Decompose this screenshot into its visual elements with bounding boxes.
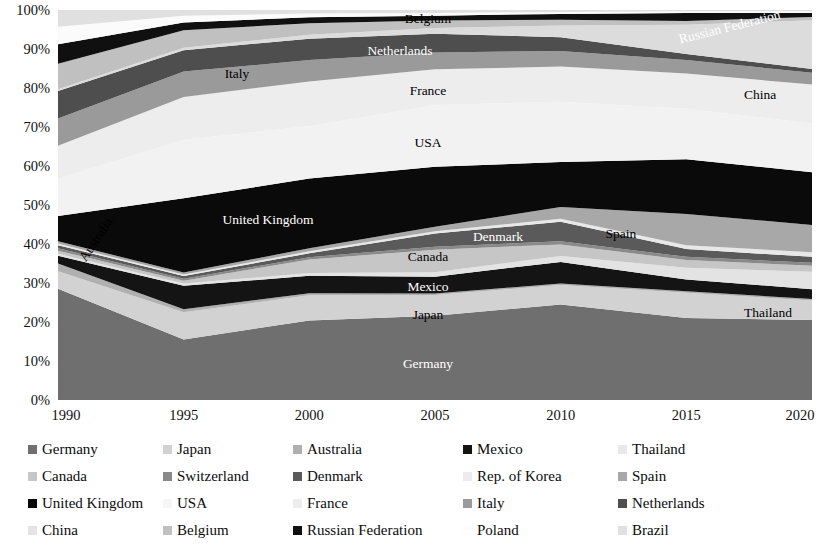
band-label-spain: Spain <box>606 226 637 241</box>
y-tick-0pct: 0% <box>31 392 50 408</box>
legend-swatch-icon-japan <box>163 445 172 454</box>
legend-swatch-icon-france <box>293 499 302 508</box>
legend-swatch-icon-brazil <box>618 526 627 535</box>
legend-label-poland: Poland <box>477 523 519 538</box>
legend-item-poland[interactable]: Poland <box>463 523 618 538</box>
legend-label-russian-federation: Russian Federation <box>307 523 422 538</box>
legend-swatch-icon-canada <box>28 472 37 481</box>
legend-item-japan[interactable]: Japan <box>163 442 293 457</box>
x-tick-1990: 1990 <box>52 407 81 423</box>
legend-item-usa[interactable]: USA <box>163 496 293 511</box>
legend-swatch-icon-usa <box>163 499 172 508</box>
chart-legend: GermanyJapanAustraliaMexicoThailandCanad… <box>0 432 822 545</box>
stacked-area-chart-page: 0%10%20%30%40%50%60%70%80%90%100% German… <box>0 0 822 545</box>
legend-swatch-icon-thailand <box>618 445 627 454</box>
y-tick-90pct: 90% <box>23 41 50 57</box>
legend-item-netherlands[interactable]: Netherlands <box>618 496 798 511</box>
x-tick-2015: 2015 <box>672 407 701 423</box>
legend-item-mexico[interactable]: Mexico <box>463 442 618 457</box>
band-label-mexico: Mexico <box>407 279 448 294</box>
x-tick-2000: 2000 <box>295 407 324 423</box>
legend-label-france: France <box>307 496 348 511</box>
band-label-thailand: Thailand <box>744 305 792 320</box>
legend-row: GermanyJapanAustraliaMexicoThailand <box>0 436 822 463</box>
y-tick-10pct: 10% <box>23 353 50 369</box>
legend-item-switzerland[interactable]: Switzerland <box>163 469 293 484</box>
legend-item-denmark[interactable]: Denmark <box>293 469 463 484</box>
band-label-japan: Japan <box>413 307 444 322</box>
chart-canvas: 0%10%20%30%40%50%60%70%80%90%100% German… <box>0 0 822 432</box>
y-tick-20pct: 20% <box>23 314 50 330</box>
legend-row: CanadaSwitzerlandDenmarkRep. of KoreaSpa… <box>0 463 822 490</box>
legend-swatch-icon-spain <box>618 472 627 481</box>
legend-item-brazil[interactable]: Brazil <box>618 523 798 538</box>
y-tick-30pct: 30% <box>23 275 50 291</box>
legend-label-mexico: Mexico <box>477 442 523 457</box>
band-label-france: France <box>410 83 447 98</box>
legend-item-china[interactable]: China <box>0 523 163 538</box>
legend-swatch-icon-netherlands <box>618 499 627 508</box>
legend-label-switzerland: Switzerland <box>177 469 249 484</box>
legend-item-belgium[interactable]: Belgium <box>163 523 293 538</box>
band-label-united-kingdom: United Kingdom <box>222 212 314 227</box>
legend-label-brazil: Brazil <box>632 523 669 538</box>
legend-swatch-icon-australia <box>293 445 302 454</box>
legend-label-rep-of-korea: Rep. of Korea <box>477 469 562 484</box>
legend-item-thailand[interactable]: Thailand <box>618 442 798 457</box>
band-label-germany: Germany <box>403 356 453 371</box>
area-bands-group <box>58 10 812 400</box>
legend-label-netherlands: Netherlands <box>632 496 704 511</box>
y-tick-60pct: 60% <box>23 158 50 174</box>
x-tick-2005: 2005 <box>421 407 450 423</box>
band-label-italy: Italy <box>225 66 250 81</box>
legend-label-united-kingdom: United Kingdom <box>42 496 143 511</box>
legend-swatch-icon-italy <box>463 499 472 508</box>
legend-label-thailand: Thailand <box>632 442 685 457</box>
legend-item-united-kingdom[interactable]: United Kingdom <box>0 496 163 511</box>
legend-label-denmark: Denmark <box>307 469 363 484</box>
y-tick-80pct: 80% <box>23 80 50 96</box>
legend-label-canada: Canada <box>42 469 87 484</box>
legend-swatch-icon-switzerland <box>163 472 172 481</box>
legend-item-rep-of-korea[interactable]: Rep. of Korea <box>463 469 618 484</box>
x-tick-2020: 2020 <box>786 407 815 423</box>
legend-label-australia: Australia <box>307 442 362 457</box>
legend-item-italy[interactable]: Italy <box>463 496 618 511</box>
legend-item-germany[interactable]: Germany <box>0 442 163 457</box>
y-tick-70pct: 70% <box>23 119 50 135</box>
legend-item-australia[interactable]: Australia <box>293 442 463 457</box>
legend-label-belgium: Belgium <box>177 523 229 538</box>
legend-item-france[interactable]: France <box>293 496 463 511</box>
legend-row: United KingdomUSAFranceItalyNetherlands <box>0 490 822 517</box>
legend-label-china: China <box>42 523 78 538</box>
legend-swatch-icon-mexico <box>463 445 472 454</box>
band-label-china: China <box>744 87 776 102</box>
band-label-belgium: Belgium <box>405 11 452 26</box>
band-label-denmark: Denmark <box>473 229 523 244</box>
legend-swatch-icon-china <box>28 526 37 535</box>
legend-label-spain: Spain <box>632 469 666 484</box>
legend-swatch-icon-denmark <box>293 472 302 481</box>
y-tick-40pct: 40% <box>23 236 50 252</box>
legend-swatch-icon-united-kingdom <box>28 499 37 508</box>
band-label-usa: USA <box>414 135 441 150</box>
legend-swatch-icon-germany <box>28 445 37 454</box>
x-axis-tick-labels: 1990199520002005201020152020 <box>52 407 815 423</box>
legend-item-canada[interactable]: Canada <box>0 469 163 484</box>
y-tick-100pct: 100% <box>16 2 50 18</box>
legend-label-usa: USA <box>177 496 207 511</box>
legend-swatch-icon-poland <box>463 526 472 535</box>
legend-label-germany: Germany <box>42 442 98 457</box>
legend-label-italy: Italy <box>477 496 505 511</box>
chart-svg: 0%10%20%30%40%50%60%70%80%90%100% German… <box>0 0 822 432</box>
legend-swatch-icon-rep-of-korea <box>463 472 472 481</box>
legend-row: ChinaBelgiumRussian FederationPolandBraz… <box>0 517 822 544</box>
x-tick-1995: 1995 <box>169 407 198 423</box>
legend-swatch-icon-belgium <box>163 526 172 535</box>
legend-swatch-icon-russian-federation <box>293 526 302 535</box>
legend-item-russian-federation[interactable]: Russian Federation <box>293 523 463 538</box>
y-axis-tick-labels: 0%10%20%30%40%50%60%70%80%90%100% <box>16 2 50 408</box>
legend-item-spain[interactable]: Spain <box>618 469 798 484</box>
band-label-netherlands: Netherlands <box>367 43 432 58</box>
y-tick-50pct: 50% <box>23 197 50 213</box>
